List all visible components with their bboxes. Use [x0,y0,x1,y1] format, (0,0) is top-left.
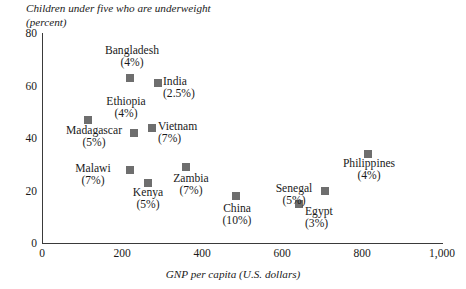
y-axis-title-line2: (percent) [26,16,211,30]
point-label-malawi-name: Malawi [75,162,110,175]
point-label-madagascar-name: Madagascar [66,124,122,137]
point-label-philippines-pct: (4%) [330,170,408,182]
point-label-zambia-name: Zambia [173,172,208,185]
point-label-india: India (2.5%) [163,76,223,101]
point-label-malawi-pct: (7%) [63,175,123,187]
data-point-china[interactable] [232,192,240,200]
x-tick-600: 600 [273,247,290,259]
data-point-senegal[interactable] [321,187,329,195]
point-label-bangladesh-name: Bangladesh [105,44,159,57]
data-point-zambia[interactable] [182,163,190,171]
point-label-kenya-name: Kenya [133,186,163,199]
point-label-malawi: Malawi (7%) [63,163,123,188]
point-label-egypt: Egypt (3%) [305,206,361,231]
chart-figure: Children under five who are underweight … [0,0,466,289]
point-label-india-pct: (2.5%) [163,88,223,100]
point-label-vietnam: Vietnam (7%) [158,121,218,146]
point-label-egypt-name: Egypt [305,205,333,218]
data-point-india[interactable] [154,79,162,87]
data-point-bangladesh[interactable] [126,74,134,82]
y-axis-title-line1: Children under five who are underweight [26,2,211,14]
point-label-india-name: India [163,75,187,88]
point-label-zambia: Zambia (7%) [161,173,221,198]
point-label-ethiopia-pct: (4%) [86,108,166,120]
point-label-egypt-pct: (3%) [305,218,361,230]
point-label-china-name: China [223,202,251,215]
data-point-malawi[interactable] [126,166,134,174]
y-tick-20: 20 [26,185,38,197]
point-label-kenya-pct: (5%) [117,199,179,211]
y-tick-40: 40 [26,132,38,144]
point-label-zambia-pct: (7%) [161,185,221,197]
point-label-madagascar-pct: (5%) [56,137,132,149]
point-label-china-pct: (10%) [208,215,266,227]
x-tick-800: 800 [353,247,370,259]
y-tick-80: 80 [26,27,38,39]
point-label-china: China (10%) [208,203,266,228]
point-label-ethiopia-name: Ethiopia [106,95,145,108]
y-tick-0: 0 [31,237,37,249]
y-tick-60: 60 [26,80,38,92]
x-tick-400: 400 [193,247,210,259]
x-tick-0: 0 [39,247,45,259]
point-label-philippines-name: Philippines [343,157,395,170]
point-label-senegal-name: Senegal [276,182,313,195]
data-point-vietnam[interactable] [148,124,156,132]
point-label-bangladesh: Bangladesh (4%) [92,45,172,70]
point-label-philippines: Philippines (4%) [330,158,408,183]
point-label-madagascar: Madagascar (5%) [56,125,132,150]
x-tick-200: 200 [113,247,130,259]
x-axis-line [42,243,443,244]
point-label-vietnam-name: Vietnam [158,120,197,133]
x-axis-title: GNP per capita (U.S. dollars) [0,268,466,280]
x-tick-1000: 1,000 [429,247,455,259]
y-axis-title: Children under five who are underweight … [26,2,211,29]
point-label-bangladesh-pct: (4%) [92,57,172,69]
point-label-ethiopia: Ethiopia (4%) [86,96,166,121]
point-label-vietnam-pct: (7%) [158,133,218,145]
